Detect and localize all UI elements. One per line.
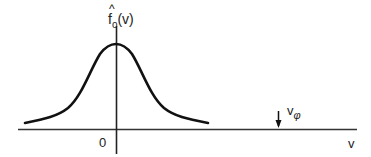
- y-label-argument: (v): [117, 11, 133, 27]
- diagram-canvas: [0, 0, 371, 157]
- y-axis-label: ^fo(v): [108, 12, 134, 26]
- vphi-label: vφ: [287, 104, 301, 117]
- origin-label: 0: [99, 136, 106, 149]
- vphi-label-base: v: [287, 103, 294, 118]
- hat-symbol: ^: [109, 3, 115, 15]
- vphi-arrow-icon: [276, 120, 282, 128]
- y-label-subscript: o: [112, 19, 118, 30]
- x-axis-label: v: [348, 137, 355, 150]
- vphi-label-subscript: φ: [294, 109, 301, 121]
